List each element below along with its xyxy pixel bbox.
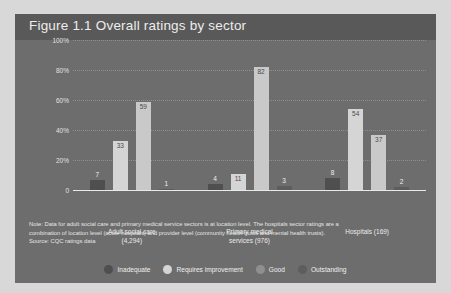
figure-title: Figure 1.1 Overall ratings by sector xyxy=(29,18,246,33)
bar-value-label: 54 xyxy=(352,110,359,117)
bar-value-label: 59 xyxy=(140,103,147,110)
legend-swatch-icon xyxy=(256,265,265,274)
bar-rect xyxy=(208,184,223,190)
bar-value-label: 82 xyxy=(257,68,264,75)
bar: 3 xyxy=(277,186,292,191)
legend-label: Inadequate xyxy=(117,266,150,273)
bar: 37 xyxy=(371,135,386,191)
bar-rect xyxy=(136,102,151,191)
legend-label: Outstanding xyxy=(311,266,347,273)
bar-value-label: 3 xyxy=(282,177,286,184)
bar-value-label: 37 xyxy=(375,136,382,143)
note-line-1: Note: Data for adult social care and pri… xyxy=(29,220,425,229)
y-tick-label: 0 xyxy=(35,187,69,194)
note-line-2: combination of location level (acute hos… xyxy=(29,229,425,238)
bar-rect xyxy=(394,187,409,190)
y-tick-label: 100% xyxy=(35,37,69,44)
legend-item[interactable]: Requires improvement xyxy=(163,265,242,274)
chart-plot-area: 020%40%60%80%100% 733591411823854372 Adu… xyxy=(15,40,436,200)
bar-rect xyxy=(277,186,292,191)
bar: 8 xyxy=(325,178,340,190)
y-tick-label: 20% xyxy=(35,157,69,164)
legend-swatch-icon xyxy=(104,265,113,274)
bar-group: 411823 xyxy=(191,40,309,190)
chart-legend: InadequateRequires improvementGoodOutsta… xyxy=(15,259,436,279)
x-axis-line xyxy=(73,190,426,191)
bar: 33 xyxy=(113,141,128,191)
bar-group: 733591 xyxy=(73,40,191,190)
bar-rect xyxy=(325,178,340,190)
figure-panel: Figure 1.1 Overall ratings by sector 020… xyxy=(15,14,436,283)
bar: 7 xyxy=(90,180,105,191)
bar: 11 xyxy=(231,174,246,191)
y-tick-label: 40% xyxy=(35,127,69,134)
y-axis-tick-labels: 020%40%60%80%100% xyxy=(29,40,69,190)
bar: 59 xyxy=(136,102,151,191)
bar: 2 xyxy=(394,187,409,190)
y-tick-label: 80% xyxy=(35,67,69,74)
figure-title-bar: Figure 1.1 Overall ratings by sector xyxy=(15,14,436,40)
bar: 1 xyxy=(159,189,174,191)
bar-value-label: 4 xyxy=(213,175,217,182)
legend-item[interactable]: Good xyxy=(256,265,285,274)
bar-group: 854372 xyxy=(308,40,426,190)
bar-value-label: 33 xyxy=(117,142,124,149)
legend-label: Good xyxy=(269,266,285,273)
bar-rect xyxy=(348,109,363,190)
legend-swatch-icon xyxy=(298,265,307,274)
bar-rect xyxy=(90,180,105,191)
bar-value-label: 1 xyxy=(165,180,169,187)
legend-label: Requires improvement xyxy=(176,266,242,273)
bar: 54 xyxy=(348,109,363,190)
bar-value-label: 2 xyxy=(400,178,404,185)
legend-item[interactable]: Inadequate xyxy=(104,265,150,274)
bar-value-label: 7 xyxy=(96,171,100,178)
bar-rect xyxy=(371,135,386,191)
bar: 4 xyxy=(208,184,223,190)
bar-rect xyxy=(159,189,174,191)
legend-item[interactable]: Outstanding xyxy=(298,265,347,274)
y-tick-label: 60% xyxy=(35,97,69,104)
bar: 82 xyxy=(254,67,269,190)
bar-groups: 733591411823854372 xyxy=(73,40,426,190)
bar-value-label: 8 xyxy=(331,169,335,176)
legend-swatch-icon xyxy=(163,265,172,274)
bar-value-label: 11 xyxy=(235,175,242,182)
figure-source: Source: CQC ratings data xyxy=(29,237,425,246)
bar-rect xyxy=(254,67,269,190)
figure-note: Note: Data for adult social care and pri… xyxy=(29,220,425,246)
